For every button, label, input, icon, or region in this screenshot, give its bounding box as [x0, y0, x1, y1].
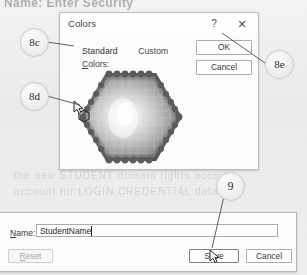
colors-label: Colors: — [82, 59, 109, 69]
name-input-value: StudentName — [40, 226, 91, 236]
close-icon[interactable]: ✕ — [234, 16, 250, 32]
cancel-button[interactable]: Cancel — [196, 60, 252, 75]
save-button[interactable]: Save — [189, 249, 239, 263]
callout-8e: 8e — [265, 50, 294, 79]
colors-dialog-tabs: Standard Custom — [82, 40, 184, 58]
colors-dialog-titlebar[interactable]: Colors ? ✕ — [60, 13, 258, 35]
colors-dialog-title: Colors — [68, 18, 96, 29]
ghost-top-text: Name: Enter Security — [4, 0, 174, 10]
color-palette-hexagon[interactable] — [78, 70, 190, 165]
text-caret — [91, 226, 92, 236]
colors-dialog: Colors ? ✕ Standard Custom Colors: — [59, 12, 259, 170]
name-label: Name: — [10, 228, 35, 238]
callout-8d: 8d — [20, 82, 49, 111]
ok-button[interactable]: OK — [196, 40, 252, 55]
tab-custom[interactable]: Custom — [138, 46, 168, 56]
name-label-rest: ame: — [16, 228, 35, 238]
callout-9: 9 — [216, 172, 245, 201]
tab-standard[interactable]: Standard — [82, 46, 118, 56]
hexagon-swatch-grid[interactable] — [78, 70, 190, 165]
save-dialog: Name: StudentName Reset Save Cancel — [0, 212, 297, 272]
callout-8c: 8c — [20, 28, 49, 57]
colors-label-rest: olors: — [88, 59, 109, 69]
reset-button[interactable]: Reset — [8, 249, 53, 263]
name-input[interactable]: StudentName — [36, 224, 278, 237]
help-icon[interactable]: ? — [206, 16, 222, 32]
hexagon-gradient-fill — [78, 70, 190, 165]
save-dialog-cancel-button[interactable]: Cancel — [246, 249, 292, 263]
